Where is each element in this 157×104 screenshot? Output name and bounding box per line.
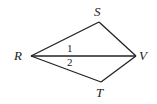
diagram-svg: R S V T 1 2 [0, 0, 157, 104]
angle-2-label: 2 [67, 56, 73, 68]
angle-1-label: 1 [67, 42, 73, 54]
label-T: T [96, 85, 104, 100]
label-R: R [13, 48, 22, 63]
geometry-diagram: R S V T 1 2 [0, 0, 157, 104]
label-V: V [139, 48, 149, 63]
label-S: S [94, 4, 101, 19]
segment-RS [31, 22, 99, 56]
segment-SV [99, 22, 136, 56]
segment-RT [31, 56, 101, 82]
segment-TV [101, 56, 136, 82]
